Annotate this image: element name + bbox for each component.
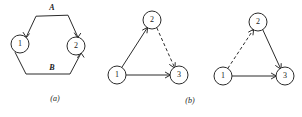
edge-b2-1-to-2 <box>228 30 254 69</box>
node-label-b2-1: 1 <box>221 71 225 80</box>
node-a-2[interactable]: 2 <box>67 37 85 55</box>
edge-path-a-bottom <box>15 52 81 74</box>
node-label-b2-3: 3 <box>283 71 287 80</box>
node-b2-1[interactable]: 1 <box>214 67 232 85</box>
edge-label-B: B <box>48 63 55 72</box>
node-label-b1-1: 1 <box>115 70 119 79</box>
edge-path-a-top <box>26 15 78 37</box>
panel-a: 1 2 A B (a) <box>11 3 85 103</box>
node-b1-1[interactable]: 1 <box>108 66 126 84</box>
arrow-head-b2-into-node-2 <box>249 29 254 35</box>
edge-b2-2-to-3 <box>263 30 281 69</box>
panel-caption-a: (a) <box>50 94 60 103</box>
diagram-canvas: 1 2 A B (a) <box>0 0 302 117</box>
node-b2-2[interactable]: 2 <box>249 13 267 31</box>
node-b1-2[interactable]: 2 <box>143 11 161 29</box>
node-label-a-2: 2 <box>74 41 78 50</box>
edge-b1-2-to-3 <box>157 28 175 68</box>
node-b2-3[interactable]: 3 <box>276 67 294 85</box>
figure-root: 1 2 A B (a) <box>0 0 302 117</box>
node-label-b1-2: 2 <box>150 15 154 24</box>
panel-b-triangle-right: 2 1 3 (b) <box>185 13 294 105</box>
panel-b-triangle-left: 2 1 3 <box>108 11 188 84</box>
panel-caption-b: (b) <box>185 96 195 105</box>
node-label-a-1: 1 <box>18 39 22 48</box>
edge-b1-1-to-2 <box>122 28 148 68</box>
node-a-1[interactable]: 1 <box>11 35 29 53</box>
node-label-b1-3: 3 <box>177 70 181 79</box>
node-b1-3[interactable]: 3 <box>170 66 188 84</box>
edge-label-A: A <box>48 3 55 12</box>
arrow-head-b1-into-node-2 <box>143 27 148 33</box>
node-label-b2-2: 2 <box>256 17 260 26</box>
